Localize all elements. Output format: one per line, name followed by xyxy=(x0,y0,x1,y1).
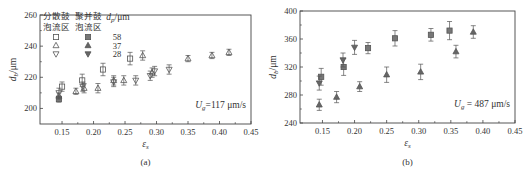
marker-triangle-up xyxy=(418,69,424,74)
marker-square xyxy=(365,46,370,51)
marker-triangle-up xyxy=(357,83,363,88)
y-tick-label: 260 xyxy=(24,10,37,20)
x-axis-label: εs xyxy=(142,139,149,151)
x-tick-label: 0.15 xyxy=(55,127,70,137)
chart-panel-a: 0.150.200.250.300.350.400.45200220240260… xyxy=(8,10,258,167)
x-tick-label: 0.45 xyxy=(508,126,523,136)
y-tick-label: 240 xyxy=(284,118,297,128)
y-axis-label: db/μm xyxy=(268,55,280,79)
panel-caption: (a) xyxy=(141,157,151,167)
x-tick-label: 0.35 xyxy=(443,126,458,136)
legend-header-coalesced: 聚并鼓 xyxy=(75,11,102,21)
marker-triangle-down xyxy=(85,52,91,57)
marker-triangle-down xyxy=(53,52,59,57)
marker-triangle-up xyxy=(384,72,390,77)
x-tick-label: 0.30 xyxy=(149,127,164,137)
marker-triangle-down xyxy=(352,45,358,50)
y-tick-label: 360 xyxy=(284,34,297,44)
marker-square xyxy=(85,34,90,39)
series-triangle-down xyxy=(316,40,357,90)
legend-header-coalesced: 泡流区 xyxy=(75,22,102,32)
x-tick-label: 0.40 xyxy=(475,126,490,136)
marker-square xyxy=(447,28,452,33)
chart-panel-b: 0.150.200.250.300.350.400.45240280320360… xyxy=(268,6,522,167)
velocity-annotation: Ug = 487 μm/s xyxy=(454,99,510,111)
y-tick-label: 400 xyxy=(284,6,297,16)
chart-figure: 0.150.200.250.300.350.400.45200220240260… xyxy=(0,0,525,176)
marker-triangle-down xyxy=(340,58,346,63)
x-tick-label: 0.45 xyxy=(244,127,259,137)
marker-triangle-up xyxy=(334,94,340,99)
y-axis-label: db/μm xyxy=(8,57,20,81)
velocity-annotation: Ug=117 μm/s xyxy=(195,100,246,112)
marker-triangle-up xyxy=(453,48,459,53)
x-tick-label: 0.15 xyxy=(315,126,330,136)
x-tick-label: 0.20 xyxy=(86,127,101,137)
marker-square xyxy=(53,34,58,39)
legend: 分散鼓泡流区聚并鼓泡流区dp/μm583728 xyxy=(43,11,131,59)
marker-triangle-up xyxy=(470,29,476,34)
marker-triangle-up xyxy=(316,102,322,107)
y-tick-label: 320 xyxy=(284,62,297,72)
series-square xyxy=(56,52,132,102)
x-tick-label: 0.20 xyxy=(347,126,362,136)
y-tick-label: 280 xyxy=(284,90,297,100)
marker-triangle-up xyxy=(85,42,91,47)
marker-square xyxy=(392,36,397,41)
legend-header-dispersed: 泡流区 xyxy=(43,22,70,32)
x-tick-label: 0.25 xyxy=(379,126,394,136)
marker-square xyxy=(428,32,433,37)
legend-dp-value: 28 xyxy=(113,49,122,59)
x-axis-label: εs xyxy=(404,138,411,150)
x-tick-label: 0.30 xyxy=(411,126,426,136)
legend-header-dp: dp/μm xyxy=(106,12,130,24)
x-tick-label: 0.35 xyxy=(181,127,196,137)
panel-caption: (b) xyxy=(402,157,413,167)
x-tick-label: 0.25 xyxy=(118,127,133,137)
y-tick-label: 200 xyxy=(24,103,37,113)
y-tick-label: 220 xyxy=(24,72,37,82)
legend-header-dispersed: 分散鼓 xyxy=(43,11,70,21)
y-tick-label: 240 xyxy=(24,41,37,51)
x-tick-label: 0.40 xyxy=(212,127,227,137)
marker-triangle-up xyxy=(53,42,59,47)
